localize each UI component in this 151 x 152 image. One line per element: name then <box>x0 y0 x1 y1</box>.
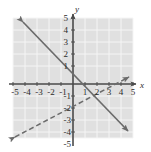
x-tick-label--4: -4 <box>23 87 31 97</box>
y-tick-label--5: -5 <box>64 139 72 149</box>
x-tick-label-4: 4 <box>119 87 124 97</box>
x-tick-label-5: 5 <box>131 87 136 97</box>
y-tick-label-4: 4 <box>64 25 69 35</box>
y-tick-label-1: 1 <box>64 61 69 71</box>
graph-canvas: -5 -4 -3 -2 -1 1 2 3 4 5 5 4 3 2 1 -1 -2… <box>0 0 151 152</box>
x-axis-label: x <box>139 80 144 90</box>
x-tick-label-2: 2 <box>95 87 100 97</box>
y-tick-label-2: 2 <box>64 49 69 59</box>
y-tick-label--4: -4 <box>64 127 72 137</box>
y-tick-label--1: -1 <box>64 91 72 101</box>
x-tick-label--3: -3 <box>35 87 43 97</box>
y-tick-label-5: 5 <box>64 13 69 23</box>
x-tick-label--2: -2 <box>47 87 55 97</box>
y-tick-label-3: 3 <box>64 37 69 47</box>
x-tick-label-3: 3 <box>107 87 112 97</box>
coordinate-plane-figure: -5 -4 -3 -2 -1 1 2 3 4 5 5 4 3 2 1 -1 -2… <box>0 0 151 152</box>
x-tick-label--5: -5 <box>11 87 19 97</box>
x-tick-label-1: 1 <box>83 87 88 97</box>
y-tick-label--3: -3 <box>64 115 72 125</box>
y-tick-label--2: -2 <box>64 103 72 113</box>
y-axis-label: y <box>74 4 79 14</box>
